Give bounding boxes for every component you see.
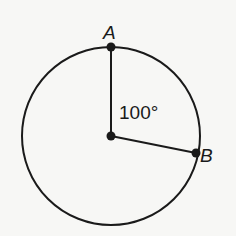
point-b-label: B xyxy=(200,145,213,166)
center-point xyxy=(107,132,116,141)
point-a xyxy=(107,43,116,52)
point-a-label: A xyxy=(102,22,116,43)
radius-to-b xyxy=(111,136,196,153)
circle-diagram: A B 100° xyxy=(0,0,236,236)
angle-label: 100° xyxy=(119,102,158,123)
